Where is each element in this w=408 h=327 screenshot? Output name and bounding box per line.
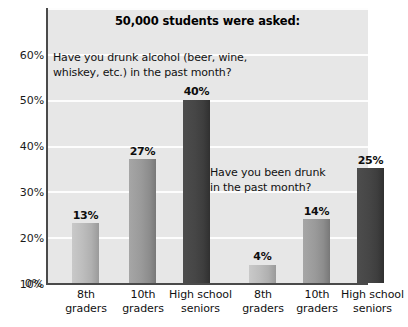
bar-drunk-8th	[249, 265, 276, 283]
annotation-alcohol-question: Have you drunk alcohol (beer, wine, whis…	[53, 51, 263, 80]
y-tick-0: 0%	[0, 278, 42, 289]
x-axis-line	[46, 283, 368, 285]
bar-value-alcohol-10th: 27%	[117, 145, 168, 158]
bar-drunk-10th	[303, 219, 330, 283]
bar-alcohol-10th	[129, 159, 156, 283]
bar-value-drunk-high-school: 25%	[345, 154, 396, 167]
x-tick-line2: seniors	[328, 302, 408, 316]
y-tick-60: 60%	[2, 50, 44, 61]
chart-title: 50,000 students were asked:	[47, 14, 368, 28]
y-axis-line	[46, 8, 48, 285]
gridline-60	[47, 8, 368, 10]
y-tick-30: 30%	[2, 187, 44, 198]
bar-value-alcohol-8th: 13%	[60, 209, 111, 222]
bar-value-alcohol-high-school: 40%	[171, 85, 222, 98]
bar-alcohol-8th	[72, 223, 99, 283]
annotation-drunk-question: Have you been drunk in the past month?	[210, 166, 350, 195]
x-tick-line1: High school	[328, 288, 408, 302]
y-tick-20: 20%	[2, 233, 44, 244]
y-tick-40: 40%	[2, 141, 44, 152]
bar-value-drunk-10th: 14%	[291, 205, 342, 218]
bar-alcohol-high-school	[183, 100, 210, 283]
plot-area: 13% 27% 40% 4% 14% 25%	[47, 8, 368, 283]
bar-drunk-high-school	[357, 168, 384, 283]
bar-value-drunk-8th: 4%	[237, 250, 288, 263]
y-tick-50: 50%	[2, 95, 44, 106]
x-tick-drunk-high-school: High school seniors	[328, 288, 408, 315]
